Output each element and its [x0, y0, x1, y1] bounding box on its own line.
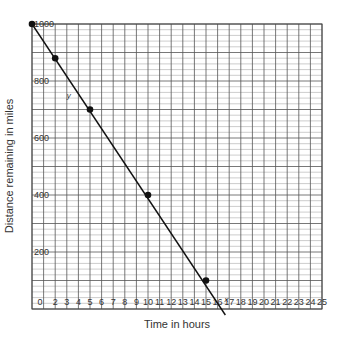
- x-tick-label: 12: [166, 297, 176, 307]
- x-tick-label: 5: [87, 297, 92, 307]
- data-point: [87, 106, 94, 113]
- data-point: [145, 192, 152, 199]
- y-tick-label: 200: [34, 247, 49, 257]
- x-tick-label: 20: [259, 297, 269, 307]
- x-tick-label: 4: [76, 297, 81, 307]
- x-tick-label: 14: [189, 297, 199, 307]
- y-tick-label: 600: [34, 133, 49, 143]
- x-tick-label: 2: [53, 297, 58, 307]
- x-tick-label: 11: [155, 297, 164, 307]
- x-tick-label: 25: [317, 297, 327, 307]
- x-tick-label: 21: [271, 297, 281, 307]
- x-tick-label: 15: [201, 297, 211, 307]
- x-tick-label: 23: [294, 297, 304, 307]
- x-axis-label: Time in hours: [144, 318, 211, 330]
- x-tick-label: 13: [178, 297, 188, 307]
- data-points: [29, 21, 210, 284]
- x-tick-label: 8: [122, 297, 127, 307]
- data-point: [52, 55, 59, 62]
- x-tick-label: 10: [143, 297, 153, 307]
- y-tick-label: 1000: [34, 19, 54, 29]
- x-tick-label: 18: [236, 297, 246, 307]
- x-tick-label: 19: [247, 297, 257, 307]
- grid: [32, 24, 322, 309]
- y-tick-label: 800: [34, 76, 49, 86]
- x-tick-label: 3: [64, 297, 69, 307]
- data-point: [203, 277, 210, 284]
- x-tick-label: 22: [282, 297, 292, 307]
- y-axis-label: Distance remaining in miles: [3, 98, 15, 233]
- chart: 0234567891011121314151617181920212223242…: [0, 0, 344, 340]
- x-tick-label: 24: [305, 297, 315, 307]
- x-tick-label: 6: [99, 297, 104, 307]
- y-tick-label: 400: [34, 190, 49, 200]
- x-tick-label: 0: [37, 297, 42, 307]
- x-tick-label: 7: [111, 297, 116, 307]
- data-point: [29, 21, 36, 28]
- x-tick-label: 9: [134, 297, 139, 307]
- data-line: [32, 24, 225, 315]
- x-tick-labels: 0234567891011121314151617181920212223242…: [37, 297, 327, 307]
